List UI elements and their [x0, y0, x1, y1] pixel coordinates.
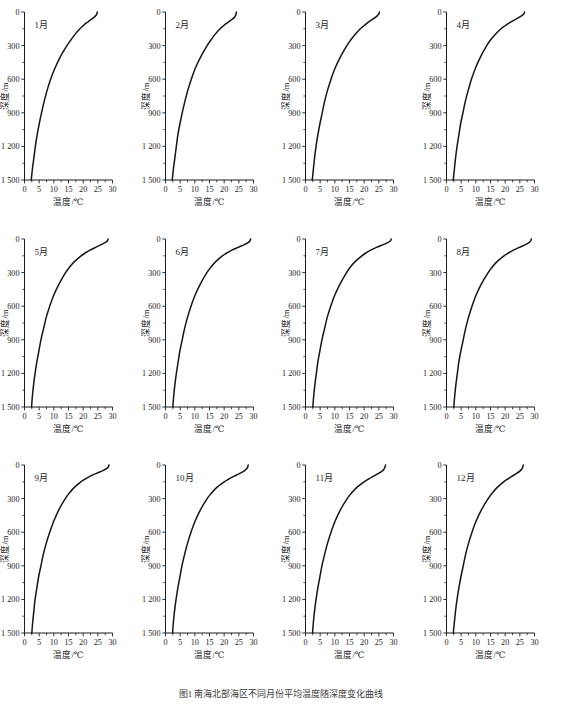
x-tick-label: 15 [345, 185, 353, 194]
temperature-profile-curve [313, 239, 391, 407]
y-tick-label: 0 [437, 8, 441, 17]
y-tick-label: 1 200 [142, 369, 160, 378]
x-tick-label: 30 [249, 185, 257, 194]
x-tick-label: 5 [318, 185, 322, 194]
panel-month-label: 6月 [175, 247, 189, 257]
panel-plot-2: 03006009001 2001 500051015202530温度/℃深度/m… [141, 0, 282, 227]
x-tick-label: 5 [459, 412, 463, 421]
y-tick-label: 300 [288, 42, 300, 51]
y-tick-label: 300 [7, 42, 19, 51]
x-tick-label: 0 [444, 185, 448, 194]
axis-spines [25, 465, 113, 633]
y-axis-title: 深度/m [0, 82, 10, 109]
y-tick-label: 300 [148, 42, 160, 51]
x-tick-label: 25 [234, 639, 242, 648]
axis-spines [165, 12, 253, 180]
x-tick-label: 15 [486, 185, 494, 194]
figure-temperature-depth-profiles: 03006009001 2001 500051015202530温度/℃深度/m… [0, 0, 562, 709]
x-tick-label: 30 [108, 185, 116, 194]
x-tick-label: 10 [190, 412, 198, 421]
x-tick-label: 30 [389, 185, 397, 194]
temperature-profile-curve [453, 239, 530, 407]
panel-plot-7: 03006009001 2001 500051015202530温度/℃深度/m… [281, 227, 422, 454]
y-tick-label: 0 [156, 461, 160, 470]
x-tick-label: 30 [108, 412, 116, 421]
panel-month-label: 9月 [35, 473, 49, 483]
axis-spines [25, 239, 113, 407]
x-tick-label: 0 [303, 185, 307, 194]
panel-plot-10: 03006009001 2001 500051015202530温度/℃深度/m… [141, 453, 282, 680]
y-tick-label: 1 500 [423, 176, 441, 185]
temperature-profile-curve [172, 239, 250, 407]
panel-plot-12: 03006009001 2001 500051015202530温度/℃深度/m… [422, 453, 562, 680]
y-tick-label: 1 500 [142, 629, 160, 638]
x-tick-label: 30 [249, 412, 257, 421]
y-tick-label: 0 [15, 8, 19, 17]
panel-plot-4: 03006009001 2001 500051015202530温度/℃深度/m… [422, 0, 562, 227]
x-tick-label: 25 [515, 639, 523, 648]
chart-panel-month-8: 03006009001 2001 500051015202530温度/℃深度/m… [422, 227, 562, 454]
temperature-profile-curve [32, 465, 109, 633]
y-tick-label: 1 200 [282, 142, 300, 151]
y-tick-label: 1 500 [1, 402, 19, 411]
x-tick-label: 10 [190, 185, 198, 194]
x-tick-label: 10 [50, 639, 58, 648]
y-axis-title: 深度/m [0, 309, 10, 336]
x-tick-label: 15 [64, 412, 72, 421]
x-axis-title: 温度/℃ [475, 649, 505, 660]
x-tick-label: 15 [205, 185, 213, 194]
x-tick-label: 30 [108, 639, 116, 648]
chart-panel-month-11: 03006009001 2001 500051015202530温度/℃深度/m… [281, 453, 422, 680]
y-tick-label: 300 [288, 495, 300, 504]
y-tick-label: 300 [429, 268, 441, 277]
x-tick-label: 20 [501, 639, 509, 648]
x-tick-label: 30 [530, 185, 538, 194]
y-axis-title: 深度/m [141, 309, 151, 336]
x-tick-label: 10 [471, 639, 479, 648]
panel-month-label: 12月 [456, 473, 474, 483]
y-tick-label: 300 [429, 495, 441, 504]
y-tick-label: 1 200 [282, 369, 300, 378]
x-axis-title: 温度/℃ [53, 422, 83, 433]
x-tick-label: 15 [486, 412, 494, 421]
x-tick-label: 10 [190, 639, 198, 648]
y-tick-label: 300 [7, 268, 19, 277]
y-axis-title: 深度/m [281, 309, 291, 336]
x-tick-label: 15 [205, 412, 213, 421]
x-tick-label: 10 [331, 639, 339, 648]
x-tick-label: 5 [178, 639, 182, 648]
panel-month-label: 5月 [35, 247, 49, 257]
x-tick-label: 0 [163, 639, 167, 648]
x-tick-label: 25 [94, 412, 102, 421]
y-axis-title: 深度/m [141, 82, 151, 109]
y-tick-label: 1 200 [423, 142, 441, 151]
x-axis-title: 温度/℃ [194, 649, 224, 660]
y-tick-label: 1 200 [423, 595, 441, 604]
x-tick-label: 5 [318, 412, 322, 421]
axis-spines [165, 239, 253, 407]
y-tick-label: 1 500 [423, 629, 441, 638]
x-tick-label: 0 [163, 185, 167, 194]
temperature-profile-curve [32, 239, 109, 407]
x-axis-title: 温度/℃ [334, 422, 364, 433]
y-axis-title: 深度/m [422, 82, 432, 109]
temperature-profile-curve [453, 12, 524, 180]
x-tick-label: 5 [178, 185, 182, 194]
x-tick-label: 20 [220, 639, 228, 648]
x-tick-label: 10 [50, 185, 58, 194]
axis-spines [165, 465, 253, 633]
chart-panel-month-6: 03006009001 2001 500051015202530温度/℃深度/m… [141, 227, 282, 454]
panel-plot-8: 03006009001 2001 500051015202530温度/℃深度/m… [422, 227, 562, 454]
x-tick-label: 25 [375, 639, 383, 648]
figure-caption: 图1 南海北部海区不同月份平均温度随深度变化曲线 [0, 688, 562, 709]
x-tick-label: 20 [79, 639, 87, 648]
x-tick-label: 20 [501, 412, 509, 421]
temperature-profile-curve [313, 465, 386, 633]
x-tick-label: 25 [375, 412, 383, 421]
y-tick-label: 0 [296, 8, 300, 17]
x-axis-title: 温度/℃ [194, 422, 224, 433]
x-tick-label: 10 [471, 185, 479, 194]
x-tick-label: 10 [50, 412, 58, 421]
y-tick-label: 0 [156, 234, 160, 243]
panel-grid: 03006009001 2001 500051015202530温度/℃深度/m… [0, 0, 562, 680]
